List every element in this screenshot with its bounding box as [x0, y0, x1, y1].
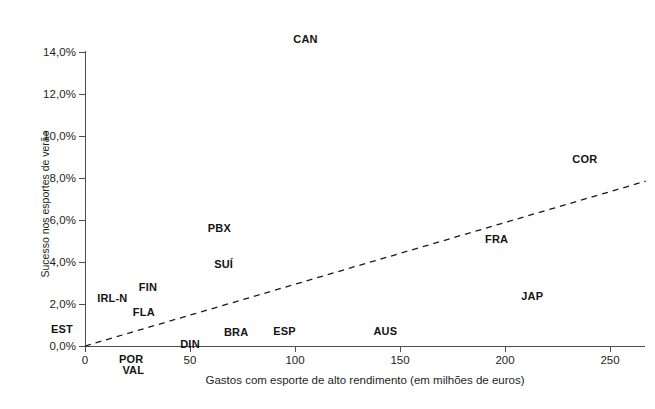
- y-tick-mark: [79, 262, 85, 263]
- data-point-label-su-: SUÍ: [214, 258, 233, 270]
- x-tick-label: 50: [184, 354, 197, 366]
- data-point-label-val: VAL: [122, 364, 144, 376]
- y-axis-line: [85, 51, 86, 346]
- data-point-label-cor: COR: [572, 153, 597, 165]
- x-tick-label: 150: [390, 354, 409, 366]
- x-tick-mark: [400, 346, 401, 352]
- y-tick-mark: [79, 52, 85, 53]
- x-axis-line: [85, 346, 645, 347]
- data-point-label-pbx: PBX: [208, 222, 231, 234]
- x-tick-mark: [505, 346, 506, 352]
- data-point-label-por: POR: [119, 353, 143, 365]
- y-tick-label: 0,0%: [2, 340, 76, 352]
- x-tick-label: 0: [82, 354, 88, 366]
- y-tick-mark: [79, 136, 85, 137]
- y-tick-mark: [79, 304, 85, 305]
- data-point-label-aus: AUS: [373, 325, 397, 337]
- y-tick-label: 14,0%: [2, 46, 76, 58]
- data-point-label-fra: FRA: [485, 233, 508, 245]
- scatter-chart: 0,0%2,0%4,0%6,0%8,0%10,0%12,0%14,0% 0501…: [0, 0, 655, 409]
- y-tick-mark: [79, 94, 85, 95]
- x-tick-mark: [295, 346, 296, 352]
- x-tick-mark: [85, 346, 86, 352]
- data-point-label-din: DIN: [180, 338, 200, 350]
- data-point-label-fin: FIN: [139, 281, 157, 293]
- x-tick-label: 200: [495, 354, 514, 366]
- data-point-label-can: CAN: [293, 33, 317, 45]
- data-point-label-fla: FLA: [133, 306, 155, 318]
- data-point-label-jap: JAP: [521, 290, 543, 302]
- data-point-label-esp: ESP: [273, 325, 296, 337]
- data-point-label-bra: BRA: [224, 326, 248, 338]
- y-tick-mark: [79, 220, 85, 221]
- x-tick-mark: [610, 346, 611, 352]
- y-axis-title: Sucesso nos esportes de verão: [39, 74, 51, 334]
- data-point-label-irl-n: IRL-N: [97, 292, 127, 304]
- data-point-label-est: EST: [51, 323, 73, 335]
- x-tick-label: 100: [285, 354, 304, 366]
- x-tick-label: 250: [600, 354, 619, 366]
- x-axis-title: Gastos com esporte de alto rendimento (e…: [85, 374, 645, 386]
- trendline: [0, 0, 655, 409]
- y-tick-mark: [79, 178, 85, 179]
